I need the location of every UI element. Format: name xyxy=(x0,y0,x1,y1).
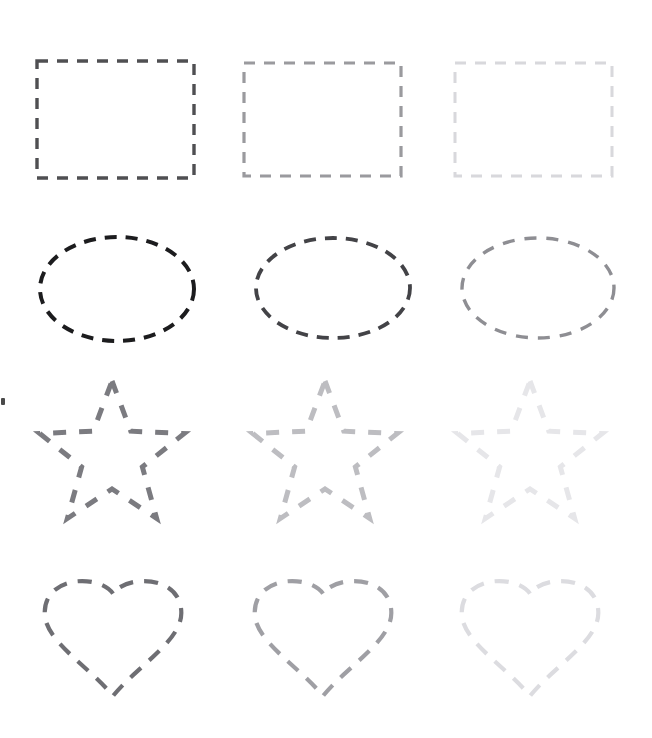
shape-ellipse-dark xyxy=(32,229,202,349)
rectangle-outline xyxy=(455,63,612,176)
shape-heart-mid xyxy=(245,564,401,704)
heart-svg xyxy=(35,564,191,704)
star-svg xyxy=(28,373,196,541)
rectangle-svg xyxy=(447,55,620,184)
rectangle-svg xyxy=(236,55,409,184)
rectangle-svg xyxy=(29,53,202,186)
ellipse-outline xyxy=(40,237,194,341)
shape-ellipse-mid xyxy=(248,230,418,346)
ellipse-svg xyxy=(248,230,418,346)
star-svg xyxy=(241,373,409,541)
shape-heart-dark xyxy=(35,564,191,704)
shape-rectangle-mid xyxy=(236,55,409,184)
ellipse-svg xyxy=(454,230,622,346)
ellipse-outline xyxy=(256,238,410,338)
shape-rectangle-dark xyxy=(29,53,202,186)
heart-outline xyxy=(462,581,599,696)
shape-rectangle-light xyxy=(447,55,620,184)
shape-star-light xyxy=(446,373,614,541)
ellipse-svg xyxy=(32,229,202,349)
shape-heart-light xyxy=(452,564,608,704)
rectangle-outline xyxy=(37,61,194,178)
heart-outline xyxy=(45,581,182,696)
star-outline xyxy=(40,381,185,518)
heart-svg xyxy=(452,564,608,704)
star-outline xyxy=(458,381,603,518)
heart-svg xyxy=(245,564,401,704)
rectangle-outline xyxy=(244,63,401,176)
shape-ellipse-light xyxy=(454,230,622,346)
star-svg xyxy=(446,373,614,541)
heart-outline xyxy=(255,581,392,696)
shape-star-dark xyxy=(28,373,196,541)
edge-speck xyxy=(1,398,5,405)
ellipse-outline xyxy=(462,238,614,338)
star-outline xyxy=(253,381,398,518)
shape-star-mid xyxy=(241,373,409,541)
worksheet-canvas xyxy=(0,0,652,738)
